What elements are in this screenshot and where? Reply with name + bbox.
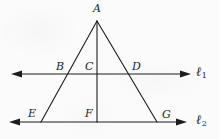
point-label-B: B	[56, 61, 64, 72]
point-label-E: E	[28, 108, 36, 119]
point-label-D: D	[132, 61, 141, 72]
line-l2-right-arrowhead	[176, 119, 187, 126]
line-label-l1: ℓ1	[196, 66, 207, 82]
line-l1-right-arrowhead	[180, 71, 191, 78]
line-label-l2: ℓ2	[196, 114, 207, 130]
point-label-G: G	[162, 109, 171, 120]
point-label-C: C	[85, 61, 93, 72]
line-l1	[11, 71, 191, 78]
geometry-figure: A B C D E F G ℓ1 ℓ2	[0, 0, 219, 139]
line-label-l1-subscript: 1	[201, 71, 206, 80]
line-l2-left-arrowhead	[9, 119, 20, 126]
segment-right-leg	[97, 21, 157, 122]
point-label-F: F	[85, 108, 93, 119]
point-label-A: A	[93, 3, 101, 14]
line-label-l2-subscript: 2	[201, 119, 206, 128]
line-l1-left-arrowhead	[11, 71, 22, 78]
